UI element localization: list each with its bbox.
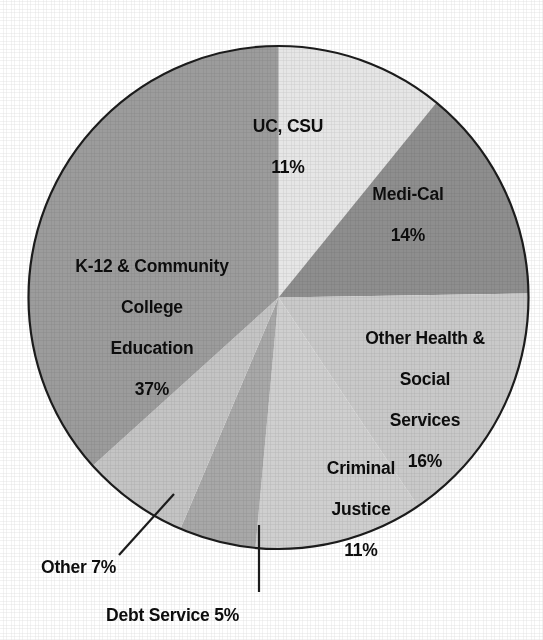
- slice-label-criminal-justice-line2: Justice: [296, 499, 426, 520]
- slice-label-criminal-justice-line1: Criminal: [296, 458, 426, 479]
- pie-chart-figure: UC, CSU 11% Medi-Cal 14% Other Health & …: [0, 0, 543, 640]
- slice-label-medi-cal: Medi-Cal 14%: [348, 163, 468, 266]
- slice-label-k12-line2: College: [44, 297, 260, 318]
- slice-label-k12-line3: Education: [44, 338, 260, 359]
- slice-label-k12-value: 37%: [44, 379, 260, 400]
- slice-label-k12-community-college-education: K-12 & Community College Education 37%: [44, 235, 260, 421]
- slice-label-k12-line1: K-12 & Community: [44, 256, 260, 277]
- slice-label-other-hss-line2: Social: [345, 369, 505, 390]
- slice-label-other-hss-line3: Services: [345, 410, 505, 431]
- callout-label-other: Other 7%: [41, 557, 116, 578]
- slice-label-uc-csu-value: 11%: [233, 157, 343, 178]
- slice-label-other-hss-line1: Other Health &: [345, 328, 505, 349]
- slice-label-medi-cal-name: Medi-Cal: [348, 184, 468, 205]
- slice-label-medi-cal-value: 14%: [348, 225, 468, 246]
- slice-label-uc-csu: UC, CSU 11%: [233, 95, 343, 198]
- slice-label-criminal-justice-value: 11%: [296, 540, 426, 561]
- slice-label-criminal-justice: Criminal Justice 11%: [296, 437, 426, 581]
- callout-label-debt-service: Debt Service 5%: [106, 605, 239, 626]
- slice-label-uc-csu-name: UC, CSU: [233, 116, 343, 137]
